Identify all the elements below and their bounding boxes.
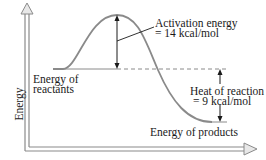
x-axis-arrow: [25, 143, 257, 155]
products-label: Energy of products: [150, 127, 238, 138]
reactants-label-line2: reactants: [33, 84, 74, 95]
activation-energy-label-line2: = 14 kcal/mol: [155, 28, 219, 39]
activation-leader-line: [117, 27, 154, 41]
activation-energy-arrow: [115, 15, 120, 69]
energy-diagram: Energy Activation energy = 14 kcal/mol E…: [0, 0, 266, 160]
y-axis-label: Energy: [13, 79, 25, 129]
heat-of-reaction-label-line2: = 9 kcal/mol: [193, 96, 251, 107]
